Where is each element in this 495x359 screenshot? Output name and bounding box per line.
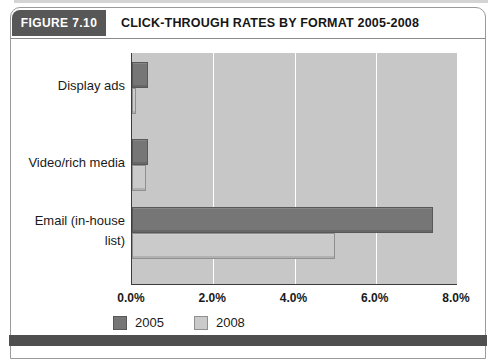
legend-label: 2005 bbox=[135, 315, 164, 330]
bar-2008-video-rich-media bbox=[132, 165, 146, 191]
x-axis-tick-labels: 0.0%2.0%4.0%6.0%8.0% bbox=[131, 289, 456, 309]
category-label: Video/rich media bbox=[13, 153, 125, 173]
bar-2005-email-in-house-list- bbox=[132, 207, 433, 233]
bar-2008-display-ads bbox=[132, 88, 136, 114]
legend-item-2008: 2008 bbox=[194, 315, 245, 330]
category-label: Email (in-house list) bbox=[13, 211, 125, 251]
bottom-rule-bar bbox=[9, 335, 487, 346]
legend-label: 2008 bbox=[216, 315, 245, 330]
x-tick-label: 4.0% bbox=[280, 291, 307, 305]
legend-item-2005: 2005 bbox=[113, 315, 164, 330]
category-axis-labels: Display adsVideo/rich mediaEmail (in-hou… bbox=[13, 53, 125, 284]
top-edge-strip bbox=[14, 0, 488, 3]
figure-box: FIGURE 7.10 CLICK-THROUGH RATES BY FORMA… bbox=[10, 7, 486, 359]
x-tick-label: 2.0% bbox=[199, 291, 226, 305]
x-tick-label: 0.0% bbox=[117, 291, 144, 305]
bar-2005-video-rich-media bbox=[132, 139, 148, 165]
bar-2008-email-in-house-list- bbox=[132, 233, 335, 259]
x-tick-label: 8.0% bbox=[442, 291, 469, 305]
figure-title: CLICK-THROUGH RATES BY FORMAT 2005-2008 bbox=[121, 8, 419, 38]
x-tick-label: 6.0% bbox=[361, 291, 388, 305]
legend-swatch-icon bbox=[113, 316, 127, 330]
legend: 20052008 bbox=[113, 315, 245, 330]
figure-header: FIGURE 7.10 CLICK-THROUGH RATES BY FORMA… bbox=[11, 8, 485, 39]
category-label: Display ads bbox=[13, 76, 125, 96]
bar-2005-display-ads bbox=[132, 62, 148, 88]
plot-area bbox=[131, 53, 457, 285]
legend-swatch-icon bbox=[194, 316, 208, 330]
figure-number-label: FIGURE 7.10 bbox=[12, 10, 106, 36]
gridline bbox=[376, 53, 377, 284]
